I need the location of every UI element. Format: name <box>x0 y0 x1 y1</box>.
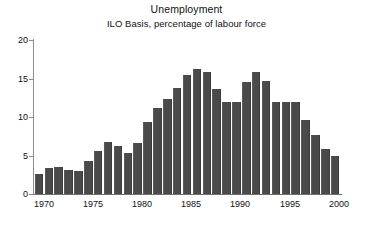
bar <box>212 89 221 194</box>
page-title: Unemployment <box>0 3 373 16</box>
y-axis-tick-mark <box>29 117 33 118</box>
bar <box>94 151 103 194</box>
bar <box>104 142 113 194</box>
bar <box>84 161 93 194</box>
bar <box>232 102 241 194</box>
bar-series <box>34 40 340 194</box>
bar <box>183 75 192 194</box>
chart-subtitle: ILO Basis, percentage of labour force <box>0 17 373 30</box>
bar <box>222 102 231 194</box>
x-axis-tick-label: 1990 <box>230 199 250 209</box>
y-axis-tick-label: 10 <box>18 112 28 122</box>
x-axis-tick-label: 1985 <box>181 199 201 209</box>
bar <box>163 99 172 194</box>
bar <box>173 88 182 194</box>
y-axis-tick-mark <box>29 156 33 157</box>
bar <box>64 170 73 194</box>
x-axis-tick-label: 1995 <box>280 199 300 209</box>
bar <box>242 82 251 194</box>
unemployment-bar-chart: Unemployment ILO Basis, percentage of la… <box>0 0 373 231</box>
x-axis-tick-label: 1970 <box>34 199 54 209</box>
y-axis-tick-label: 5 <box>23 151 28 161</box>
y-axis-labels: 05101520 <box>0 0 28 231</box>
bar <box>133 143 142 194</box>
bar <box>124 153 133 194</box>
bar <box>252 72 261 194</box>
chart-title-block: Unemployment ILO Basis, percentage of la… <box>0 3 373 30</box>
x-axis-tick-label: 1980 <box>132 199 152 209</box>
bar <box>311 135 320 194</box>
x-axis-tick-label: 2000 <box>329 199 349 209</box>
x-axis-line <box>30 194 342 195</box>
bar <box>301 120 310 194</box>
y-axis-tick-label: 20 <box>18 35 28 45</box>
y-axis-tick-mark <box>29 194 33 195</box>
y-axis-tick-mark <box>29 79 33 80</box>
y-axis-tick-label: 15 <box>18 74 28 84</box>
bar <box>272 102 281 194</box>
bar <box>114 146 123 195</box>
bar <box>203 72 212 194</box>
bar <box>193 69 202 194</box>
bar <box>143 122 152 194</box>
bar <box>35 174 44 194</box>
bar <box>321 149 330 194</box>
bar <box>262 81 271 194</box>
bar <box>153 108 162 194</box>
y-axis-tick-label: 0 <box>23 189 28 199</box>
plot-area <box>34 40 340 194</box>
bar <box>45 168 54 194</box>
bar <box>331 156 340 194</box>
bar <box>74 171 83 194</box>
bar <box>291 102 300 194</box>
x-axis-tick-label: 1975 <box>83 199 103 209</box>
bar <box>54 167 63 194</box>
bar <box>282 102 291 194</box>
y-axis-tick-mark <box>29 40 33 41</box>
